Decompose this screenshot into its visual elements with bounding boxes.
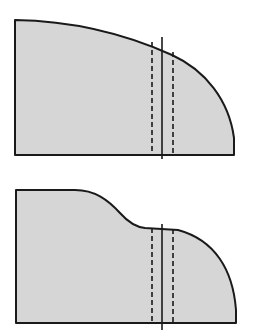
diagram-canvas: [0, 0, 260, 336]
lower-profile-figure: [16, 190, 236, 330]
lower-profile-outline: [16, 190, 236, 323]
upper-profile-outline: [15, 20, 234, 155]
upper-profile-figure: [15, 20, 234, 159]
cross-section-diagram: [0, 0, 260, 336]
